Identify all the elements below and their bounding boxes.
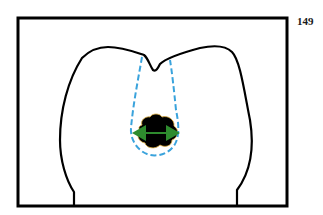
figure-frame [18,18,287,206]
tooth-diagram [0,0,323,215]
